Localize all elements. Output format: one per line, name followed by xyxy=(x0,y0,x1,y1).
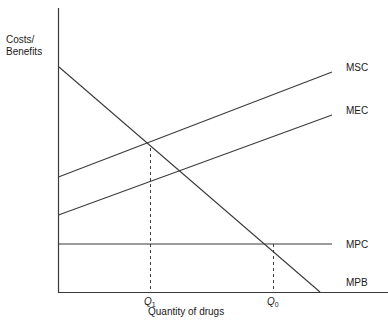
economics-externality-diagram: Costs/Benefits Quantity of drugs MSC MEC… xyxy=(0,0,388,330)
q0-letter: Q xyxy=(267,296,275,307)
q1-subscript: 1 xyxy=(152,301,156,308)
curve-label-mpb: MPB xyxy=(346,277,368,289)
diagram-canvas xyxy=(0,0,388,330)
curve-label-mpc: MPC xyxy=(346,239,368,251)
x-axis-title: Quantity of drugs xyxy=(148,306,224,318)
q1-axis-label: Q1 xyxy=(144,296,156,309)
q1-letter: Q xyxy=(144,296,152,307)
mec-curve xyxy=(59,115,333,215)
curve-label-mec: MEC xyxy=(346,105,368,117)
q0-axis-label: Q0 xyxy=(267,296,279,309)
msc-curve xyxy=(59,72,333,177)
mpb-curve xyxy=(59,67,320,292)
y-axis-title-line2: Benefits xyxy=(6,46,42,57)
curve-label-msc: MSC xyxy=(346,62,368,74)
y-axis-title: Costs/Benefits xyxy=(6,34,42,58)
q0-subscript: 0 xyxy=(275,301,279,308)
y-axis-title-line1: Costs/ xyxy=(6,34,34,45)
